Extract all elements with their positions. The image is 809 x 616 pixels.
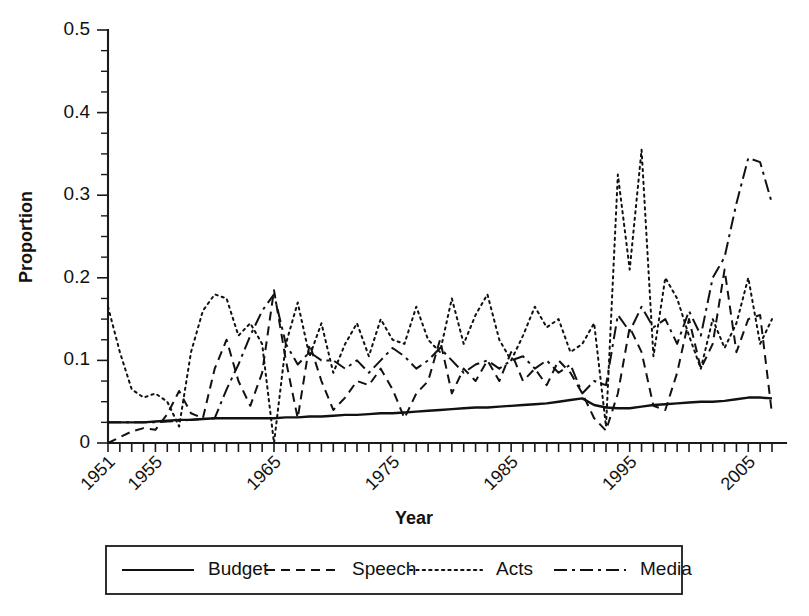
plot-series-group [108, 150, 772, 443]
y-tick-label: 0.3 [64, 183, 90, 204]
x-axis-tick-labels: 1951195519651975198519952005 [76, 452, 759, 494]
y-tick-label: 0.2 [64, 266, 90, 287]
y-tick-label: 0.4 [64, 101, 91, 122]
y-axis-tick-labels: 00.10.20.30.40.5 [64, 18, 91, 452]
x-tick-label: 1955 [124, 452, 166, 494]
chart-legend: BudgetSpeechActsMedia [106, 546, 692, 594]
y-axis-title: Proportion [16, 191, 36, 283]
legend-label-media: Media [640, 558, 692, 579]
x-axis-ticks [108, 443, 772, 452]
legend-label-budget: Budget [208, 558, 269, 579]
proportion-by-year-line-chart: 00.10.20.30.40.5 Proportion 195119551965… [0, 0, 809, 616]
y-tick-label: 0.1 [64, 348, 90, 369]
y-tick-label: 0.5 [64, 18, 90, 39]
x-axis: 1951195519651975198519952005 Year [76, 443, 786, 528]
y-tick-label: 0 [79, 431, 90, 452]
x-tick-label: 1985 [480, 452, 522, 494]
x-tick-label: 1951 [76, 452, 118, 494]
legend-label-acts: Acts [496, 558, 533, 579]
x-axis-title: Year [395, 508, 433, 528]
x-tick-label: 2005 [717, 452, 759, 494]
series-line-speech [108, 270, 772, 443]
legend-label-speech: Speech [352, 558, 416, 579]
chart-figure: 00.10.20.30.40.5 Proportion 195119551965… [0, 0, 809, 616]
x-tick-label: 1995 [598, 452, 640, 494]
x-tick-label: 1965 [242, 452, 284, 494]
x-tick-label: 1975 [361, 452, 403, 494]
y-axis: 00.10.20.30.40.5 Proportion [16, 18, 108, 452]
